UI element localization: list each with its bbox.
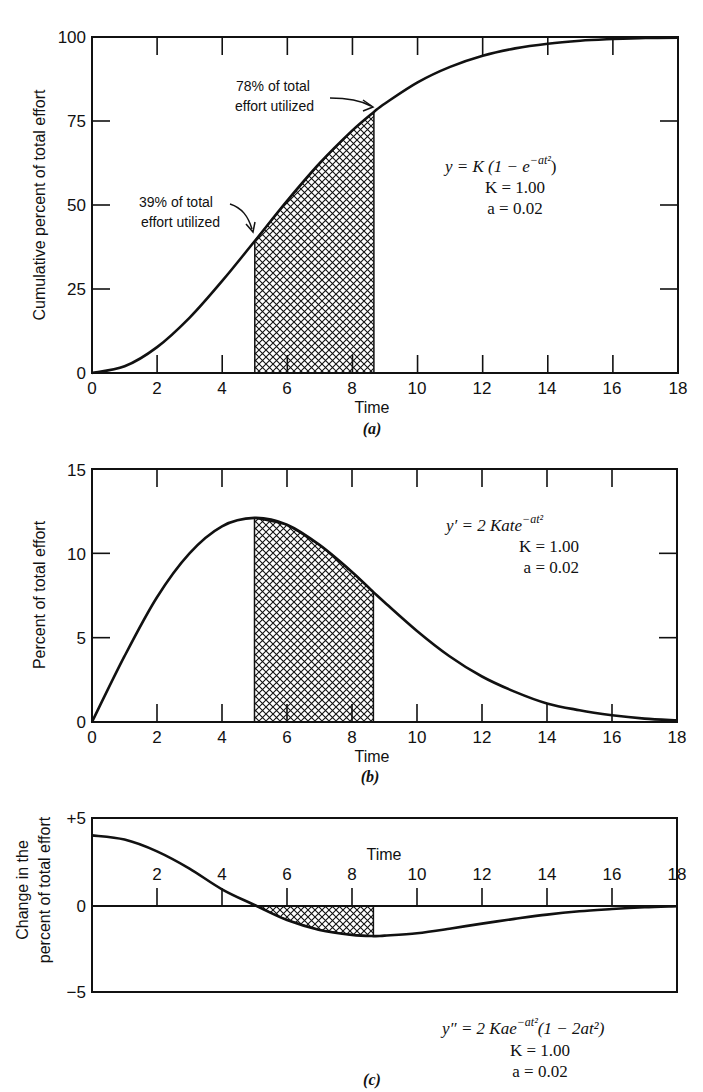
x-tick-label: 10 (408, 865, 427, 884)
annotation-text: effort utilized (235, 98, 314, 114)
formula-line1: y″ = 2 Kae−at²(1 − 2at²) (440, 1015, 605, 1038)
x-tick-label: 18 (669, 379, 688, 398)
formula-line2: K = 1.00 (485, 178, 545, 197)
y-tick-label: 0 (77, 897, 86, 916)
x-tick-label: 0 (87, 379, 96, 398)
y-axis-title-c-line2: percent of total effort (36, 816, 53, 963)
x-tick-label: 10 (408, 379, 427, 398)
x-tick-label: 2 (152, 865, 161, 884)
x-tick-label: 12 (473, 865, 492, 884)
y-tick-label: 50 (67, 196, 86, 215)
y-tick-label: 15 (67, 461, 86, 480)
panel-label-c: (c) (363, 1071, 381, 1089)
formula-main: y′ = 2 Kate (444, 516, 523, 535)
formula-b: y′ = 2 Kate−at² K = 1.00 a = 0.02 (444, 512, 579, 577)
x-axis-title-a: Time (355, 399, 390, 416)
shaded-region-a (255, 112, 374, 373)
x-tick-label: 16 (603, 379, 622, 398)
chart-panel-b: 0 5 10 15 0 2 4 6 8 10 12 14 16 18 Time … (31, 461, 686, 786)
formula-line1: y = K (1 − e−at²) (443, 153, 557, 176)
formula-a: y = K (1 − e−at²) K = 1.00 a = 0.02 (443, 153, 557, 218)
x-tick-label: 4 (217, 728, 226, 747)
annotation-39: 39% of total effort utilized (139, 194, 255, 232)
x-tick-label: 12 (473, 728, 492, 747)
formula-line1: y′ = 2 Kate−at² (444, 512, 544, 535)
panel-label-b: (b) (361, 768, 380, 786)
y-tick-label: 25 (67, 280, 86, 299)
y-tick-labels-c: −5 0 +5 (67, 809, 86, 1002)
x-tick-label: 2 (152, 728, 161, 747)
figure: 0 25 50 75 100 0 2 4 6 8 10 12 14 16 18 … (0, 0, 703, 1092)
formula-c: y″ = 2 Kae−at²(1 − 2at²) K = 1.00 a = 0.… (440, 1015, 605, 1081)
x-tick-label: 2 (152, 379, 161, 398)
formula-exponent: −at² (517, 1015, 538, 1029)
x-tick-label: 18 (668, 865, 687, 884)
x-tick-label: 6 (282, 728, 291, 747)
x-tick-label: 14 (538, 728, 557, 747)
formula-main: y = K (1 − e (443, 157, 530, 176)
plot-frame-b (92, 469, 677, 722)
x-tick-label: 6 (282, 379, 291, 398)
x-tick-label: 16 (603, 728, 622, 747)
chart-panel-c: −5 0 +5 2 4 6 8 10 12 14 16 18 Time Chan… (14, 809, 686, 1089)
x-tick-label: 14 (538, 379, 557, 398)
y-tick-labels-a: 0 25 50 75 100 (58, 28, 86, 383)
y-tick-label: −5 (67, 983, 86, 1002)
annotation-text: 39% of total (139, 194, 213, 210)
x-tick-label: 10 (408, 728, 427, 747)
x-tick-label: 8 (347, 379, 356, 398)
x-tick-label: 6 (282, 865, 291, 884)
formula-exponent: −at² (530, 153, 551, 167)
formula-line3: a = 0.02 (524, 558, 579, 577)
x-axis-title-c: Time (367, 846, 402, 863)
x-tick-label: 4 (217, 379, 226, 398)
x-tick-labels-c: 2 4 6 8 10 12 14 16 18 (152, 865, 686, 884)
annotation-text: effort utilized (141, 214, 220, 230)
formula-exponent: −at² (522, 512, 543, 526)
shaded-region-b (255, 518, 374, 722)
formula-main: y″ = 2 Kae (440, 1019, 517, 1038)
arrowhead-icon (363, 100, 373, 111)
x-tick-label: 4 (217, 865, 226, 884)
y-tick-label: 5 (77, 629, 86, 648)
y-axis-title-a: Cumulative percent of total effort (31, 89, 48, 320)
formula-line3: a = 0.02 (512, 1062, 567, 1081)
x-tick-label: 14 (538, 865, 557, 884)
annotation-text: 78% of total (236, 78, 310, 94)
y-tick-label: +5 (67, 809, 86, 828)
ticks-b (92, 469, 677, 722)
y-tick-label: 10 (67, 545, 86, 564)
x-tick-label: 18 (668, 728, 687, 747)
formula-end: ) (551, 157, 557, 176)
formula-line2: K = 1.00 (510, 1041, 570, 1060)
y-tick-label: 75 (67, 112, 86, 131)
y-tick-labels-b: 0 5 10 15 (67, 461, 86, 732)
y-axis-title-c-line1: Change in the (14, 840, 31, 940)
y-axis-title-b: Percent of total effort (31, 520, 48, 669)
x-tick-label: 8 (347, 728, 356, 747)
y-tick-label: 0 (77, 364, 86, 383)
x-tick-labels-b: 0 2 4 6 8 10 12 14 16 18 (87, 728, 686, 747)
formula-end: (1 − 2at²) (538, 1019, 605, 1038)
formula-line3: a = 0.02 (487, 199, 542, 218)
x-tick-label: 8 (347, 865, 356, 884)
formula-line2: K = 1.00 (519, 537, 579, 556)
x-tick-label: 12 (473, 379, 492, 398)
x-tick-labels-a: 0 2 4 6 8 10 12 14 16 18 (87, 379, 687, 398)
chart-panel-a: 0 25 50 75 100 0 2 4 6 8 10 12 14 16 18 … (31, 28, 687, 438)
annotation-arrow (230, 204, 252, 229)
shaded-region-c (255, 905, 374, 936)
y-tick-label: 100 (58, 28, 86, 47)
x-tick-label: 0 (87, 728, 96, 747)
curve-b (92, 518, 677, 722)
x-tick-label: 16 (603, 865, 622, 884)
annotation-78: 78% of total effort utilized (235, 78, 373, 114)
panel-label-a: (a) (363, 420, 382, 438)
y-tick-label: 0 (77, 713, 86, 732)
x-axis-title-b: Time (355, 748, 390, 765)
